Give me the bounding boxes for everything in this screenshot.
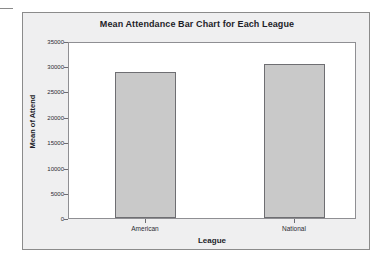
bar-national[interactable] (264, 64, 325, 218)
plot-area (68, 42, 356, 219)
y-tick-label-25000: 25000 (47, 89, 64, 95)
x-tick-label-national: National (249, 225, 339, 232)
corner-dash-mark (0, 8, 13, 9)
y-tick-label-5000: 5000 (51, 191, 64, 197)
y-tick-label-10000: 10000 (47, 166, 64, 172)
y-tick-mark-0 (64, 219, 68, 220)
chart-panel: Mean Attendance Bar Chart for Each Leagu… (22, 12, 370, 250)
x-tick-mark-national (294, 219, 295, 223)
bar-american[interactable] (115, 72, 176, 218)
x-tick-mark-american (145, 219, 146, 223)
x-axis-title: League (68, 236, 356, 245)
x-tick-label-american: American (100, 225, 190, 232)
y-tick-label-35000: 35000 (47, 39, 64, 45)
y-tick-label-20000: 20000 (47, 115, 64, 121)
y-tick-label-30000: 30000 (47, 64, 64, 70)
y-tick-label-15000: 15000 (47, 140, 64, 146)
plot-inner (69, 43, 355, 218)
chart-title: Mean Attendance Bar Chart for Each Leagu… (23, 19, 370, 29)
y-axis-title: Mean of Attend (28, 91, 37, 153)
